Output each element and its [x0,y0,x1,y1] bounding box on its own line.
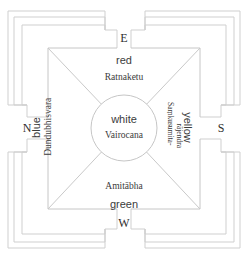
center-circle [91,95,157,161]
direction-letter-east: E [0,32,248,44]
deity-label-north: Dundubhisvara [44,81,54,173]
deity-label-east: Ratnaketu [0,73,248,83]
color-label-east: red [0,55,248,66]
direction-letter-west: W [0,217,248,229]
direction-letter-south: S [212,122,230,134]
color-label-north: blue [31,98,42,158]
deity-label-west: Amitābha [0,182,248,192]
deity-label-south-line1: Saṃkusumita- [166,82,174,166]
mandala-figure: white Vairocana E red Ratnaketu Amitābha… [0,0,248,257]
deity-label-south-line2: rājendra [175,94,183,178]
color-label-west: green [0,199,248,210]
